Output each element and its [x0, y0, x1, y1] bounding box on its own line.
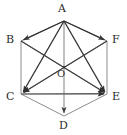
vector-CF-bold — [24, 41, 107, 92]
vertex-label-F: F — [112, 34, 120, 45]
vector-AE — [64, 21, 105, 92]
vertex-label-B: B — [6, 34, 14, 45]
edge-DE — [64, 94, 107, 116]
edge-CD — [21, 94, 64, 116]
vertex-label-A: A — [58, 3, 66, 14]
hexagon-diagram: A B C D E F O — [0, 0, 127, 135]
vector-AC — [23, 21, 64, 92]
vertex-label-C: C — [6, 91, 14, 102]
vertex-label-D: D — [59, 120, 68, 131]
vector-BE-bold — [21, 41, 104, 92]
vertex-label-E: E — [112, 91, 120, 102]
center-label-O: O — [57, 69, 65, 79]
